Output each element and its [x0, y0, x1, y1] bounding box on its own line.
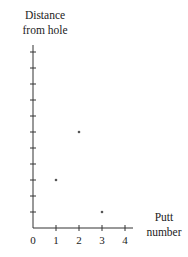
data-point — [55, 179, 58, 182]
scatter-plot: 01234 — [0, 0, 188, 257]
x-tick-label: 0 — [30, 234, 36, 246]
data-point — [78, 131, 81, 134]
x-tick-label: 4 — [122, 234, 128, 246]
x-tick-label: 2 — [76, 234, 82, 246]
x-tick-label: 3 — [99, 234, 105, 246]
x-tick-label: 1 — [53, 234, 59, 246]
data-points — [55, 131, 104, 214]
data-point — [101, 211, 104, 214]
